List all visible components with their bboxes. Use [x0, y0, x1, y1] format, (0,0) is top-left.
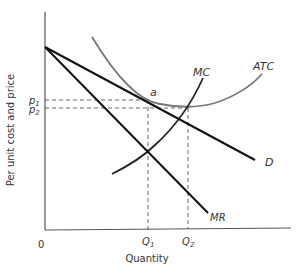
- mr-label: MR: [210, 212, 226, 223]
- x-axis-title: Quantity: [125, 253, 168, 264]
- demand-label: D: [265, 156, 273, 169]
- atc-label: ATC: [252, 60, 274, 73]
- mc-label: MC: [193, 66, 210, 79]
- axes: [45, 12, 291, 230]
- y-axis-title: Per unit cost and price: [5, 74, 16, 186]
- mr-curve: [45, 47, 208, 213]
- x-axis: [45, 228, 291, 230]
- q1-label: Q1: [142, 236, 154, 249]
- origin-label: 0: [38, 239, 44, 250]
- monopoly-diagram: MC ATC D MR a p1 p2 Q1 Q2 0 Quantity Per…: [0, 0, 297, 274]
- q2-label: Q2: [182, 236, 195, 249]
- demand-curve: [45, 47, 255, 160]
- mc-curve: [112, 78, 203, 174]
- point-a-label: a: [150, 86, 157, 99]
- atc-curve: [92, 37, 262, 107]
